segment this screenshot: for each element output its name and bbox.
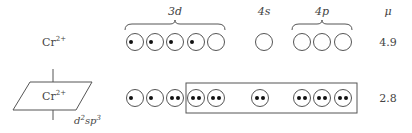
orbital-4p-1	[294, 34, 311, 51]
electron-dot	[129, 96, 133, 100]
row1-orbitals	[127, 34, 352, 51]
electron-dot	[344, 96, 348, 100]
orbital-3d-5	[208, 90, 225, 107]
orbital-4p-2	[314, 90, 331, 107]
electron-dot	[191, 96, 195, 100]
electron-dot	[197, 96, 201, 100]
electron-dot	[176, 96, 180, 100]
orbital-3d-5	[208, 34, 225, 51]
orbital-4p-2	[314, 34, 331, 51]
electron-dot	[170, 96, 174, 100]
brace-3d	[125, 20, 225, 30]
electron-dot	[297, 96, 301, 100]
row1-electrons	[129, 40, 194, 44]
label-4p: 4p	[314, 5, 329, 18]
mu-value-row1: 4.9	[379, 36, 397, 49]
orbital-4s	[256, 34, 273, 51]
electron-dot	[323, 96, 327, 100]
electron-dot	[317, 96, 321, 100]
orbital-4s	[252, 90, 269, 107]
ion-label-row1: Cr2+	[42, 35, 66, 49]
orbital-3d-4	[188, 90, 205, 107]
orbital-4p-3	[335, 90, 352, 107]
electron-dot	[261, 96, 265, 100]
electron-dot	[211, 96, 215, 100]
label-4s: 4s	[257, 5, 271, 18]
hybridization-label: d2sp3	[74, 114, 101, 126]
label-mu: μ	[384, 5, 391, 18]
electron-dot	[255, 96, 259, 100]
label-3d: 3d	[168, 5, 182, 18]
row2-electrons	[129, 96, 348, 100]
electron-dot	[338, 96, 342, 100]
electron-dot	[129, 40, 133, 44]
electron-dot	[303, 96, 307, 100]
electron-dot	[217, 96, 221, 100]
orbital-4p-1	[294, 90, 311, 107]
orbital-diagram: 3d 4s 4p μ Cr2+ 4.9 Cr2+ d2sp3	[0, 0, 412, 133]
electron-dot	[169, 40, 173, 44]
electron-dot	[190, 40, 194, 44]
orbital-4p-3	[335, 34, 352, 51]
electron-dot	[149, 96, 153, 100]
orbital-3d-3	[167, 90, 184, 107]
mu-value-row2: 2.8	[379, 92, 397, 105]
brace-4p	[292, 20, 352, 30]
electron-dot	[149, 40, 153, 44]
